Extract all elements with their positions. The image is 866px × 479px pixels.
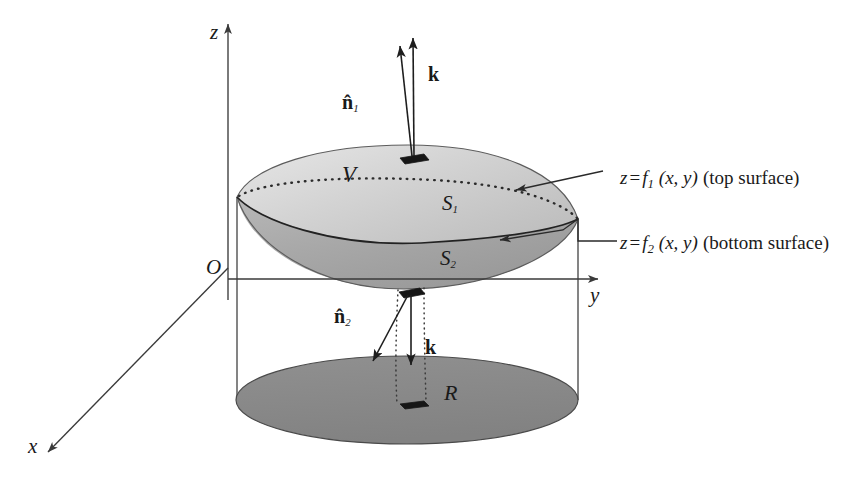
bottom-annotation-args: (x, y) [659,232,698,253]
normal-n1-label: n̂1 [342,92,359,114]
bottom-annotation-subscript: 2 [647,241,653,256]
surface-s1-subscript: 1 [453,203,458,215]
bottom-annotation-equals: = [629,232,640,253]
axis-label-y: y [590,285,599,306]
top-annotation-args: (x, y) [659,167,698,188]
normal-n1-subscript: 1 [353,102,358,114]
bottom-surface-annotation: z=f2(x, y)(bottom surface) [620,233,829,256]
normal-n2-subscript: 2 [345,316,350,328]
surface-s1-letter: S [442,191,453,215]
axis-label-z: z [210,22,218,43]
x-axis [48,268,228,452]
surface-s2-letter: S [440,246,451,270]
top-annotation-z: z [620,167,627,188]
bottom-surface-vectors [373,288,425,365]
k-vector-top-label: k [428,64,439,84]
k-vector-bottom-label: k [425,337,436,357]
top-annotation-subscript: 1 [647,176,653,191]
surface-s2-subscript: 2 [451,258,456,270]
normal-n2-symbol: n̂ [334,305,345,327]
top-surface-annotation: z=f1(x, y)(top surface) [620,168,799,191]
normal-n1-arrow [400,46,412,156]
bottom-annotation-z: z [620,232,627,253]
region-r-label: R [444,382,457,404]
axis-label-x: x [28,436,37,457]
normal-n2-arrow [373,295,408,361]
vector-calculus-diagram: z y x O V S1 S2 R n̂1 k n̂2 k z=f1(x, y)… [0,0,866,479]
surface-s2-label: S2 [440,248,456,270]
normal-n1-symbol: n̂ [342,91,353,113]
bottom-annotation-note: (bottom surface) [703,232,829,253]
region-r-ellipse [236,356,578,444]
surface-s1-label: S1 [442,193,458,215]
top-annotation-note: (top surface) [703,167,800,188]
normal-n2-label: n̂2 [334,306,351,328]
k-vector-top-arrow [413,38,414,156]
top-annotation-equals: = [629,167,640,188]
volume-label: V [342,163,356,186]
origin-label: O [206,257,221,278]
